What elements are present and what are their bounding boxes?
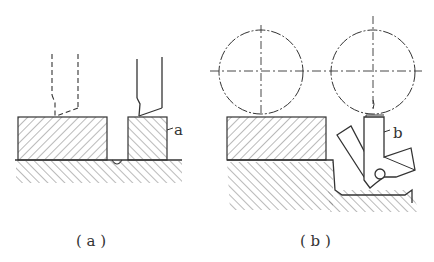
panel-b: b ( b ) xyxy=(210,16,422,250)
left-roller xyxy=(219,25,303,116)
workpiece-block-b xyxy=(227,117,326,160)
diagram-canvas: a ( a ) xyxy=(0,0,434,262)
leader-line-a xyxy=(167,128,173,130)
base-ground-a xyxy=(15,160,182,183)
part-label-b: b xyxy=(393,124,403,142)
right-roller xyxy=(331,16,415,114)
caption-a: ( a ) xyxy=(76,232,106,250)
caption-b: ( b ) xyxy=(300,232,331,250)
tool-solid-position xyxy=(137,57,162,116)
leader-line-b xyxy=(384,130,390,132)
tool-holder-b xyxy=(337,115,415,188)
right-workpiece-block-a xyxy=(128,117,167,160)
tool-dashed-position xyxy=(52,54,78,116)
panel-a: a ( a ) xyxy=(15,54,183,250)
part-label-a: a xyxy=(174,121,183,139)
left-workpiece-block xyxy=(18,117,107,160)
